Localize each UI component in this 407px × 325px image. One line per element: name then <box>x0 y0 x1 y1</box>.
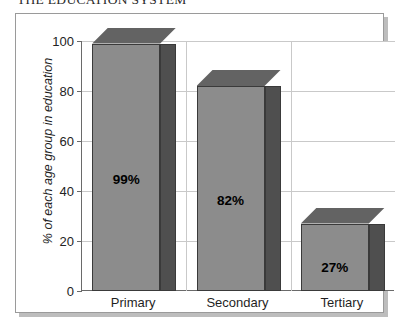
y-axis-tick-label: 100 <box>52 35 74 48</box>
x-axis-label-secondary: Secondary <box>206 295 268 310</box>
y-axis-tick <box>77 41 82 42</box>
bar-top-face-fill <box>92 28 176 44</box>
x-axis-label-primary: Primary <box>111 295 156 310</box>
bar-value-label: 99% <box>113 172 140 187</box>
x-axis-label-tertiary: Tertiary <box>321 295 364 310</box>
y-axis-tick-label: 40 <box>60 185 74 198</box>
bar-tertiary[interactable] <box>301 208 385 292</box>
bar-primary[interactable] <box>92 28 176 292</box>
y-axis-tick-label: 20 <box>60 235 74 248</box>
bar-secondary[interactable] <box>197 70 281 291</box>
bar-front-face <box>301 224 369 292</box>
y-axis-tick-labels: 020406080100 <box>16 41 74 291</box>
bar-top-face-fill <box>197 70 281 86</box>
y-axis-tick <box>77 141 82 142</box>
gridline-vertical <box>186 41 187 291</box>
y-axis-tick-label: 0 <box>67 285 74 298</box>
bar-front-face <box>197 86 265 291</box>
y-axis-tick-label: 60 <box>60 135 74 148</box>
y-axis-tick <box>77 191 82 192</box>
chart-screenshot: THE EDUCATION SYSTEM % of each age group… <box>0 0 407 325</box>
x-axis-tick-labels: PrimarySecondaryTertiary <box>81 295 394 317</box>
chart-frame: % of each age group in education 0204060… <box>15 13 384 313</box>
y-axis-tick <box>77 91 82 92</box>
bar-value-label: 27% <box>321 260 348 275</box>
gridline-vertical <box>291 41 292 291</box>
plot-area: 99%82%27% <box>81 41 394 291</box>
bar-side-face <box>160 44 176 292</box>
bar-top-face-fill <box>301 208 385 224</box>
bar-front-face <box>92 44 160 292</box>
bar-side-face <box>369 224 385 292</box>
bar-value-label: 82% <box>217 193 244 208</box>
page-title: THE EDUCATION SYSTEM <box>17 0 187 8</box>
y-axis-tick-label: 80 <box>60 85 74 98</box>
y-axis-tick <box>77 291 82 292</box>
bar-side-face <box>265 86 281 291</box>
y-axis-tick <box>77 241 82 242</box>
